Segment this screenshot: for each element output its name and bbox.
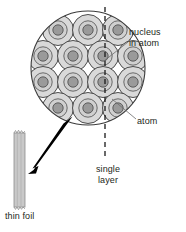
nucleus-icon [113, 25, 123, 35]
nucleus-icon [128, 77, 138, 87]
nucleus-icon [53, 25, 63, 35]
atom [73, 93, 104, 124]
label-nucleus-line1: nucleus [129, 27, 161, 38]
nucleus-icon [128, 51, 138, 61]
label-nucleus-in-atom: nucleus in atom [129, 27, 161, 48]
nucleus-icon [38, 51, 48, 61]
nucleus-icon [53, 103, 63, 113]
figure-stage: nucleus in atom atom single layer thin f… [0, 0, 186, 232]
nucleus-icon [68, 51, 78, 61]
label-nucleus-line2: in atom [129, 38, 161, 49]
thin-foil-strip [14, 130, 25, 210]
label-atom: atom [137, 116, 157, 127]
label-single-layer-line1: single [85, 164, 131, 175]
magnifier-pointer-arrow [28, 117, 73, 175]
nucleus-icon [98, 77, 108, 87]
nucleus-icon [83, 25, 93, 35]
label-single-layer-line2: layer [85, 175, 131, 186]
nucleus-icon [83, 103, 93, 113]
nucleus-icon [68, 77, 78, 87]
label-thin-foil: thin foil [5, 211, 34, 222]
nucleus-icon [38, 77, 48, 87]
label-single-layer: single layer [85, 164, 131, 185]
nucleus-icon [98, 51, 108, 61]
